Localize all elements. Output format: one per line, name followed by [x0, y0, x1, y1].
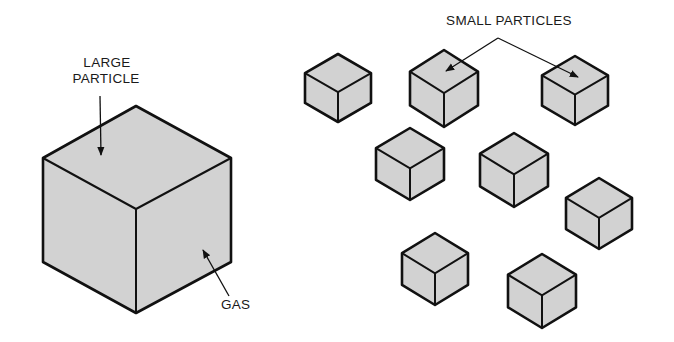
small-particles-arrow-left	[446, 38, 498, 71]
large-particle-label-line2: PARTICLE	[72, 71, 139, 86]
small-cube	[508, 254, 576, 328]
small-cube	[376, 128, 444, 200]
small-cube	[305, 54, 371, 122]
small-cube	[542, 56, 608, 125]
gas-label: GAS	[221, 297, 250, 312]
small-cube	[480, 133, 548, 207]
small-cube	[402, 233, 468, 305]
small-cube	[410, 50, 478, 127]
large-particle-label-line1: LARGE	[83, 55, 130, 70]
small-particles-label: SMALL PARTICLES	[446, 13, 572, 28]
small-cube	[566, 178, 632, 249]
small-particles-arrow-right	[498, 38, 578, 77]
large-cube	[43, 106, 231, 313]
small-cubes-group	[305, 50, 632, 328]
particle-size-diagram: LARGE PARTICLE GAS SMALL PARTICLES	[0, 0, 674, 342]
